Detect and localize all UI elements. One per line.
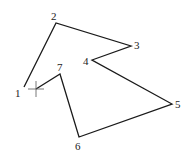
- vertex-label-2: 2: [51, 10, 57, 22]
- vertex-label-7: 7: [57, 61, 63, 73]
- vertex-label-1: 1: [15, 87, 21, 99]
- vertex-label-4: 4: [83, 55, 89, 67]
- polygon-path: [24, 23, 172, 137]
- crosshair-cursor-icon: [28, 81, 44, 97]
- vertex-label-3: 3: [134, 39, 140, 51]
- vertex-label-5: 5: [175, 98, 181, 110]
- vertex-label-6: 6: [75, 140, 81, 152]
- polygon-diagram: 1234567: [0, 0, 190, 160]
- diagram-svg: 1234567: [0, 0, 190, 160]
